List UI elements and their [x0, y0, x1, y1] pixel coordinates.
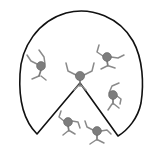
scene-svg: [0, 0, 159, 153]
figure-upper-right-head: [103, 53, 112, 62]
figure-center-head: [75, 71, 84, 80]
figure-lower-left-torso: [68, 126, 69, 131]
figure-upper-right-torso: [107, 61, 108, 66]
figure-right-head: [109, 91, 118, 100]
figure-left-head: [37, 62, 46, 71]
figure-bottom-head: [93, 127, 102, 136]
figure-canvas: [0, 0, 159, 153]
figure-lower-left-head: [64, 118, 73, 127]
